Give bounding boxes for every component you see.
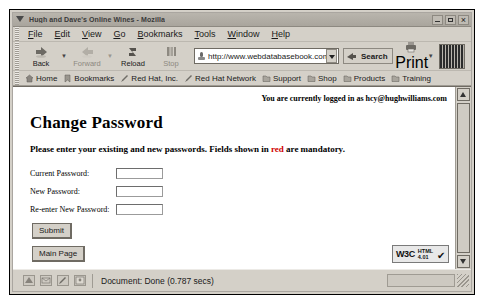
url-input[interactable]: http://www.webdatabasebook.com/wd bbox=[208, 52, 326, 61]
page-viewport: You are currently logged in as hcy@hughw… bbox=[13, 86, 471, 269]
menu-item-view[interactable]: View bbox=[76, 29, 107, 39]
forward-history-dropdown-icon[interactable]: ▼ bbox=[106, 43, 114, 70]
instructions-text-before: Please enter your existing and new passw… bbox=[30, 144, 269, 154]
pencil-icon bbox=[184, 74, 193, 83]
bookmark-support[interactable]: Support bbox=[259, 74, 304, 83]
close-button[interactable] bbox=[458, 15, 469, 25]
main-page-button-wrapper: Main Page bbox=[32, 242, 85, 262]
window-title: Hugh and Dave's Online Wines - Mozilla bbox=[29, 16, 165, 23]
print-dropdown-icon[interactable]: ▼ bbox=[427, 43, 435, 70]
folder-icon bbox=[343, 74, 352, 83]
reload-button[interactable]: Reload bbox=[114, 43, 152, 70]
scrollbar-thumb[interactable] bbox=[457, 103, 470, 253]
minimize-button[interactable] bbox=[432, 15, 443, 25]
back-arrow-icon bbox=[34, 45, 49, 59]
forward-button[interactable]: Forward bbox=[68, 43, 106, 70]
bookmark-training-label: Training bbox=[402, 74, 431, 83]
back-history-dropdown-icon[interactable]: ▼ bbox=[60, 43, 68, 70]
w3c-html-validation-badge[interactable]: W3C HTML 4.01 ✔ bbox=[392, 245, 449, 263]
menu-bar: File Edit View Go Bookmarks Tools Window… bbox=[13, 27, 471, 42]
status-bar: Document: Done (0.787 secs) bbox=[13, 269, 471, 291]
form-row-reenter-new-password: Re-enter New Password: bbox=[30, 201, 163, 217]
bookmark-red-hat-inc[interactable]: Red Hat, Inc. bbox=[117, 74, 181, 83]
vertical-scrollbar[interactable] bbox=[455, 87, 471, 269]
bookmark-shop[interactable]: Shop bbox=[304, 74, 340, 83]
w3c-logo-text: W3C bbox=[393, 249, 415, 259]
progress-meter bbox=[387, 274, 455, 287]
menu-item-bookmarks[interactable]: Bookmarks bbox=[131, 29, 188, 39]
bookmark-red-hat-network[interactable]: Red Hat Network bbox=[181, 74, 259, 83]
mail-icon[interactable] bbox=[40, 275, 52, 286]
w3c-html-version: HTML 4.01 bbox=[415, 248, 433, 260]
window-resize-grip[interactable] bbox=[457, 274, 469, 287]
page-favicon-icon bbox=[197, 52, 206, 61]
online-status-icon[interactable] bbox=[23, 275, 35, 286]
print-button[interactable]: Print bbox=[397, 43, 427, 70]
status-message: Document: Done (0.787 secs) bbox=[92, 274, 387, 288]
search-icon bbox=[346, 51, 358, 62]
window-controls bbox=[432, 15, 469, 25]
reload-button-label: Reload bbox=[121, 59, 145, 68]
bookmark-red-hat-network-label: Red Hat Network bbox=[195, 74, 256, 83]
folder-icon bbox=[391, 74, 400, 83]
bookmarkbar-grip-handle[interactable] bbox=[15, 71, 19, 85]
instructions-red-word: red bbox=[271, 144, 284, 154]
menu-item-help[interactable]: Help bbox=[266, 29, 297, 39]
folder-icon bbox=[262, 74, 271, 83]
print-button-label: Print bbox=[395, 54, 428, 72]
form-row-current-password: Current Password: bbox=[30, 165, 163, 181]
back-button[interactable]: Back bbox=[22, 43, 60, 70]
navbar-grip-handle[interactable] bbox=[15, 42, 19, 70]
composer-pencil-icon[interactable] bbox=[57, 275, 69, 286]
page-title: Change Password bbox=[30, 113, 163, 133]
mozilla-dropdown-icon[interactable] bbox=[15, 14, 26, 25]
navigation-toolbar: Back ▼ Forward ▼ bbox=[13, 42, 471, 71]
bookmark-products[interactable]: Products bbox=[340, 74, 389, 83]
menu-item-tools[interactable]: Tools bbox=[188, 29, 221, 39]
home-icon bbox=[25, 74, 34, 83]
scroll-up-button[interactable] bbox=[457, 88, 470, 101]
url-dropdown-button[interactable] bbox=[326, 49, 337, 63]
checkmark-icon: ✔ bbox=[437, 252, 445, 260]
title-bar: Hugh and Dave's Online Wines - Mozilla bbox=[13, 13, 471, 27]
bookmarks-toolbar: Home Bookmarks Red Hat, Inc. bbox=[13, 71, 471, 86]
addressbook-icon[interactable] bbox=[74, 275, 86, 286]
menu-item-window[interactable]: Window bbox=[221, 29, 265, 39]
maximize-button[interactable] bbox=[445, 15, 456, 25]
menubar-grip-handle[interactable] bbox=[15, 27, 19, 41]
folder-icon bbox=[307, 74, 316, 83]
stop-button[interactable]: Stop bbox=[152, 43, 190, 70]
search-button[interactable]: Search bbox=[343, 48, 393, 64]
stop-icon bbox=[164, 45, 178, 59]
forward-arrow-icon bbox=[80, 45, 95, 59]
menu-item-go[interactable]: Go bbox=[107, 29, 131, 39]
reenter-new-password-input[interactable] bbox=[116, 204, 163, 215]
bookmark-red-hat-inc-label: Red Hat, Inc. bbox=[131, 74, 178, 83]
scroll-down-button[interactable] bbox=[457, 255, 470, 268]
current-password-input[interactable] bbox=[116, 168, 163, 179]
window-inner-frame: Hugh and Dave's Online Wines - Mozilla F… bbox=[12, 12, 472, 292]
new-password-input[interactable] bbox=[116, 186, 163, 197]
bookmark-bookmarks[interactable]: Bookmarks bbox=[60, 74, 117, 83]
print-icon bbox=[404, 41, 419, 54]
instructions-text-after: are mandatory. bbox=[286, 144, 345, 154]
search-button-label: Search bbox=[361, 52, 388, 61]
submit-button-wrapper: Submit bbox=[32, 219, 72, 239]
status-icon-group bbox=[15, 273, 92, 288]
stop-button-label: Stop bbox=[163, 59, 178, 68]
back-button-label: Back bbox=[33, 59, 50, 68]
submit-button[interactable]: Submit bbox=[32, 223, 72, 239]
url-bar[interactable]: http://www.webdatabasebook.com/wd bbox=[194, 48, 339, 64]
menu-item-edit[interactable]: Edit bbox=[49, 29, 77, 39]
forward-button-label: Forward bbox=[73, 59, 101, 68]
bookmark-icon bbox=[63, 74, 72, 83]
bookmark-home[interactable]: Home bbox=[22, 74, 60, 83]
mozilla-logo-icon[interactable] bbox=[439, 44, 465, 69]
menu-item-file[interactable]: File bbox=[22, 29, 49, 39]
main-page-button[interactable]: Main Page bbox=[32, 246, 85, 262]
reload-icon bbox=[126, 45, 140, 59]
browser-window: Hugh and Dave's Online Wines - Mozilla F… bbox=[9, 9, 475, 295]
bookmark-home-label: Home bbox=[36, 74, 57, 83]
bookmark-shop-label: Shop bbox=[318, 74, 337, 83]
bookmark-training[interactable]: Training bbox=[388, 74, 434, 83]
